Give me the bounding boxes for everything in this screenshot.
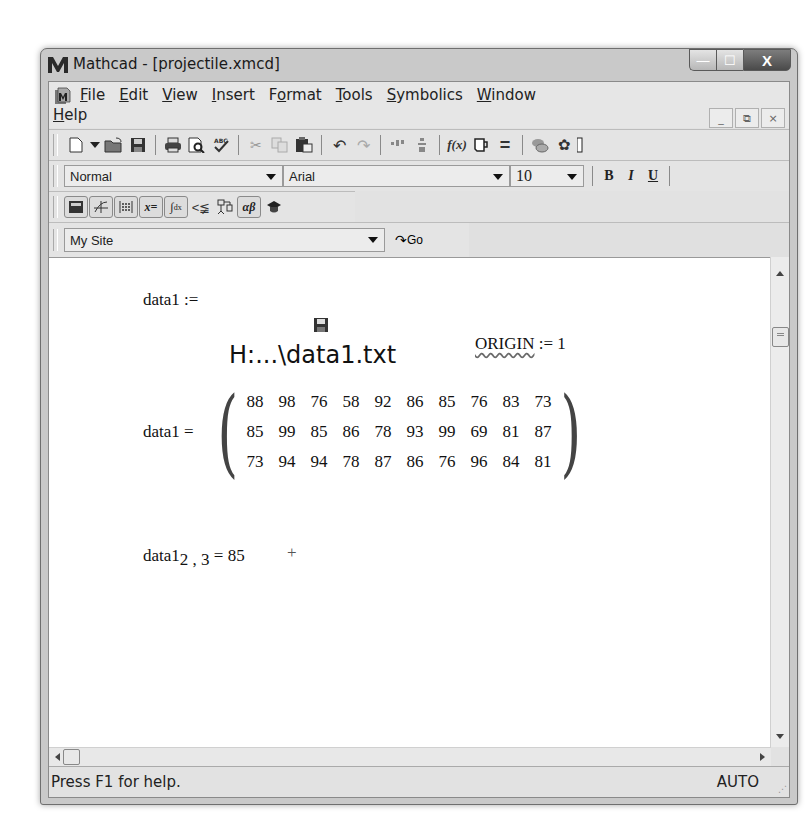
greek-palette-icon[interactable]: αβ — [237, 196, 261, 218]
maximize-button[interactable]: ☐ — [716, 49, 743, 71]
matrix-palette-icon[interactable] — [114, 196, 138, 218]
resource-icon[interactable]: ✿ — [553, 134, 575, 156]
italic-button[interactable]: I — [620, 168, 642, 184]
matrix-cell: 84 — [502, 452, 534, 472]
paste-icon[interactable] — [293, 134, 315, 156]
index-expression[interactable]: data12 , 3 = 85 — [143, 546, 245, 570]
align-vertical-icon[interactable] — [411, 134, 433, 156]
bold-button[interactable]: B — [598, 168, 620, 184]
toolbar-grip[interactable] — [53, 134, 58, 156]
menu-view[interactable]: View — [155, 86, 205, 105]
matrix-cell: 86 — [406, 452, 438, 472]
print-preview-icon[interactable] — [186, 134, 208, 156]
scroll-down-icon[interactable] — [776, 734, 784, 739]
undo-icon[interactable]: ↶ — [328, 134, 350, 156]
doc-minimize-button[interactable]: _ — [709, 108, 733, 128]
new-icon[interactable] — [65, 134, 87, 156]
vertical-scrollbar[interactable] — [770, 257, 789, 747]
doc-restore-icon: ⧉ — [743, 112, 751, 125]
client-area: File Edit View Insert Format Tools Symbo… — [48, 81, 790, 798]
toolbar-grip[interactable] — [53, 165, 58, 187]
close-button[interactable]: X — [743, 49, 791, 71]
component-icon[interactable] — [529, 134, 551, 156]
calculate-icon[interactable]: = — [494, 134, 516, 156]
toolbar-separator — [321, 135, 322, 155]
menu-help-label: elp — [64, 106, 87, 124]
file-input-path[interactable]: H:...\data1.txt — [229, 341, 396, 369]
doc-close-button[interactable]: × — [761, 108, 785, 128]
graph-palette-icon[interactable] — [89, 196, 113, 218]
copy-icon[interactable] — [269, 134, 291, 156]
horizontal-scrollbar[interactable] — [49, 747, 771, 766]
font-select[interactable]: Arial — [283, 165, 510, 187]
document-icon[interactable] — [53, 87, 71, 105]
open-icon[interactable] — [103, 134, 125, 156]
crosshair-cursor-icon: + — [287, 543, 297, 563]
data-matrix[interactable]: ( 88987658928685768373 85998586789399698… — [209, 382, 590, 482]
menu-format-mnemonic: o — [277, 86, 286, 104]
print-icon[interactable] — [162, 134, 184, 156]
matrix-cell: 85 — [246, 422, 278, 442]
font-value: Arial — [289, 169, 315, 184]
scroll-up-icon[interactable] — [776, 271, 784, 276]
font-size-select[interactable]: 10 — [510, 165, 584, 187]
style-select[interactable]: Normal — [64, 165, 283, 187]
menu-format-label: rmat — [286, 86, 322, 104]
assignment-lhs[interactable]: data1 := — [143, 290, 198, 310]
toolbar-separator — [380, 135, 381, 155]
vertical-scroll-thumb[interactable] — [772, 327, 789, 347]
calculus-palette-icon[interactable]: ∫dx — [164, 196, 188, 218]
resize-grip-icon[interactable]: ⋰ — [778, 784, 786, 794]
toolbar-dock-area — [469, 222, 789, 257]
menu-tools[interactable]: Tools — [329, 86, 380, 105]
worksheet[interactable]: data1 := H:...\data1.txt ORIGIN := 1 dat… — [49, 257, 771, 748]
boolean-palette-icon[interactable]: <≨ — [190, 196, 212, 218]
save-icon[interactable] — [127, 134, 149, 156]
calculator-palette-icon[interactable] — [64, 196, 88, 218]
matrix-cell: 99 — [278, 422, 310, 442]
mathcad-logo-icon — [47, 55, 69, 75]
spell-check-icon[interactable]: ABC — [210, 134, 232, 156]
toolbar-grip[interactable] — [53, 229, 58, 251]
menu-help-mnemonic: H — [53, 106, 64, 124]
underline-button[interactable]: U — [642, 168, 664, 184]
horizontal-scroll-thumb[interactable] — [63, 749, 80, 765]
matrix-cell: 87 — [374, 452, 406, 472]
menu-edit[interactable]: Edit — [112, 86, 155, 105]
site-select[interactable]: My Site — [64, 228, 385, 252]
symbolic-palette-icon[interactable] — [263, 196, 285, 218]
scroll-right-icon[interactable] — [760, 753, 765, 761]
evaluation-palette-icon[interactable]: x= — [139, 196, 163, 218]
menu-symbolics[interactable]: Symbolics — [380, 86, 470, 105]
menu-view-mnemonic: V — [162, 86, 172, 104]
right-paren: ) — [561, 384, 582, 480]
menu-window-mnemonic: W — [477, 86, 492, 104]
new-dropdown-icon[interactable] — [89, 134, 101, 156]
matrix-cell: 76 — [438, 452, 470, 472]
menu-window[interactable]: Window — [470, 86, 543, 105]
programming-palette-icon[interactable] — [214, 196, 236, 218]
file-input-icon[interactable] — [314, 318, 328, 332]
minimize-button[interactable]: — — [689, 49, 716, 71]
doc-restore-button[interactable]: ⧉ — [735, 108, 759, 128]
go-button[interactable]: ↷ Go — [395, 232, 423, 248]
title-bar[interactable]: Mathcad - [projectile.xmcd] — ☐ X — [41, 49, 797, 81]
align-horizontal-icon[interactable] — [387, 134, 409, 156]
matrix-cell: 93 — [406, 422, 438, 442]
minimize-icon: — — [697, 53, 710, 68]
toolbar-separator — [669, 166, 670, 186]
insert-unit-icon[interactable] — [470, 134, 492, 156]
menu-file[interactable]: File — [73, 86, 112, 105]
toolbar-overflow-icon[interactable] — [577, 134, 583, 156]
origin-statement[interactable]: ORIGIN := 1 — [475, 334, 566, 354]
menu-help[interactable]: Help — [53, 106, 94, 124]
cut-icon[interactable]: ✂ — [245, 134, 267, 156]
menu-insert[interactable]: Insert — [205, 86, 262, 105]
scroll-left-icon[interactable] — [55, 753, 60, 761]
menu-view-label: iew — [172, 86, 198, 104]
matrix-lhs[interactable]: data1 = — [143, 422, 194, 442]
menu-format[interactable]: Format — [262, 86, 329, 105]
redo-icon[interactable]: ↷ — [352, 134, 374, 156]
toolbar-grip[interactable] — [53, 196, 58, 218]
insert-function-icon[interactable]: f(x) — [446, 134, 468, 156]
